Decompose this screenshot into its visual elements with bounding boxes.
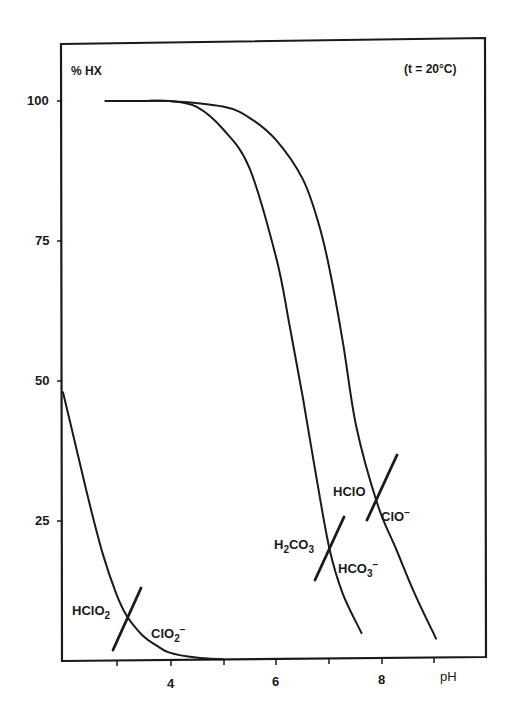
y-tick-25: 25 [35,514,49,527]
curve-0 [63,392,223,659]
y-tick-75: 75 [35,234,49,247]
label-clo-ion: ClO− [381,510,410,523]
y-tick-100: 100 [27,94,49,107]
y-tick-50: 50 [35,374,49,387]
label-hclo: HClO [333,485,366,498]
label-hco3-ion: HCO3− [338,562,378,575]
label-hclo2: HClO2 [72,604,110,617]
plot-frame [61,38,486,661]
x-tick-8: 8 [378,673,385,686]
x-axis-title: pH [440,670,457,683]
curves [63,101,436,660]
curve-1 [106,101,362,633]
label-h2co3: H2CO3 [274,538,314,551]
y-axis-title: % HX [71,65,102,77]
temperature-annotation: (t = 20°C) [404,63,456,75]
label-clo2-ion: ClO2− [151,627,186,640]
curve-2 [106,101,437,639]
x-tick-6: 6 [272,675,279,688]
x-tick-4: 4 [167,677,174,690]
